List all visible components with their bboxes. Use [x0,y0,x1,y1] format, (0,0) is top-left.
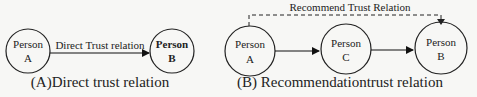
node-circle [415,22,467,74]
node-label-line1: Person [13,38,43,50]
trust-relation-figure: Person A Person B Direct Trust relation … [0,0,477,97]
edge-label-direct-trust: Direct Trust relation [55,39,145,51]
edge-label-recommend-trust: Recommend Trust Relation [290,1,412,13]
node-label-line2: A [246,53,254,65]
node-label-line1: Person [426,36,456,48]
diagram-direct-trust: Person A Person B Direct Trust relation … [6,29,194,91]
node-person-b: Person B [415,22,467,74]
node-person-a: Person A [6,29,50,73]
node-label-line2: C [342,51,349,63]
node-circle [321,24,371,74]
node-circle [150,29,194,73]
node-person-a: Person A [225,26,275,76]
node-circle [6,29,50,73]
node-label-line1: Person [331,37,361,49]
node-person-b: Person B [150,29,194,73]
node-label-line1: Person [156,38,188,50]
node-person-c: Person C [321,24,371,74]
diagram-recommendation-trust: Person A Person C Person B Recommend Tru… [225,1,467,91]
node-label-line2: A [24,52,32,64]
node-label-line2: B [437,50,444,62]
node-circle [225,26,275,76]
node-label-line1: Person [235,38,265,50]
node-label-line2: B [168,52,176,64]
caption-a: (A)Direct trust relation [31,74,170,91]
caption-b: (B) Recommendationtrust relation [237,74,443,91]
